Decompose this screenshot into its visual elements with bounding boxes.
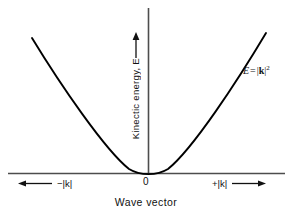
- kinetic-energy-dispersion-figure: Kinectic energy, E E=|k|2 −|k| 0 +|k| Wa…: [0, 0, 292, 222]
- y-axis-label: Kinectic energy, E: [128, 58, 144, 139]
- curve-equation-exponent: 2: [266, 64, 270, 72]
- x-axis-label: Wave vector: [0, 196, 292, 208]
- right-arrow-icon: [232, 179, 266, 188]
- curve-equation-label: E=|k|2: [243, 64, 270, 76]
- y-axis-label-group: Kinectic energy, E: [128, 32, 144, 168]
- negative-wavevector-annotation: −|k|: [18, 176, 72, 191]
- origin-label: 0: [143, 176, 149, 187]
- left-arrow-icon: [18, 179, 52, 188]
- positive-wavevector-label: +|k|: [212, 178, 227, 189]
- positive-wavevector-annotation: +|k|: [212, 176, 266, 191]
- curve-equation-equals: =: [249, 65, 257, 76]
- negative-wavevector-label: −|k|: [57, 178, 72, 189]
- up-arrow-icon: [128, 32, 144, 58]
